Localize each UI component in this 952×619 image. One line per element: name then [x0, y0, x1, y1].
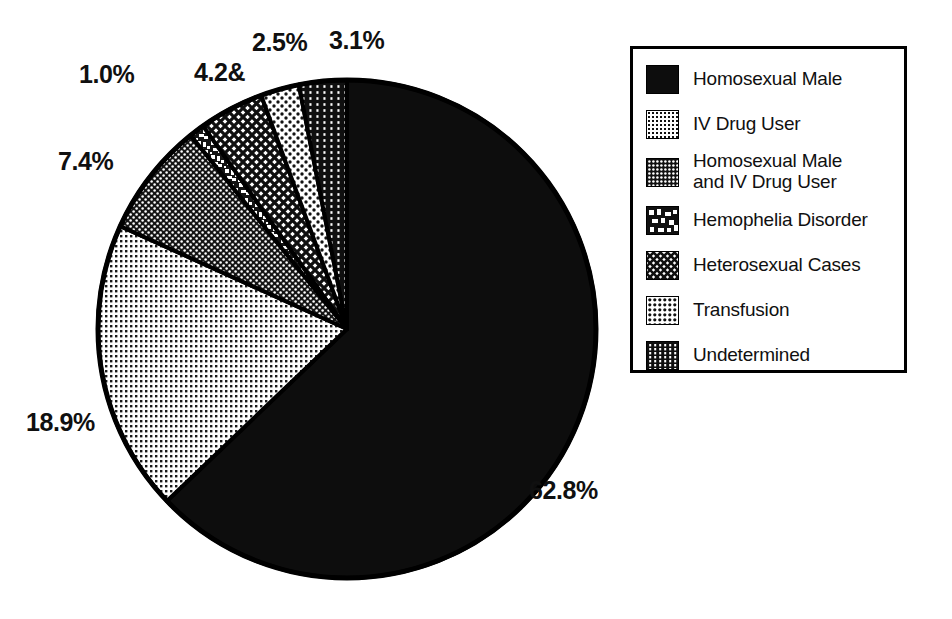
- legend-item-label: Homosexual Male: [693, 69, 842, 90]
- pie-slice-percent-label: 2.5%: [252, 30, 307, 55]
- legend-swatch-dark-dot-grid-icon: [646, 158, 679, 187]
- pie-slice-group: [98, 80, 596, 578]
- pie-slice-percent-label: 62.8%: [529, 478, 598, 503]
- legend-item[interactable]: Hemophelia Disorder: [646, 198, 900, 242]
- legend-item-label: Undetermined: [693, 345, 810, 366]
- legend-swatch-diagonal-crosshatch-icon: [646, 251, 679, 280]
- pie-slice-percent-label: 3.1%: [329, 28, 384, 53]
- legend-item[interactable]: Transfusion: [646, 288, 900, 332]
- legend-item-label: Homosexual Male and IV Drug User: [693, 151, 842, 192]
- legend-item[interactable]: Homosexual Male: [646, 57, 900, 101]
- chart-legend: Homosexual MaleIV Drug UserHomosexual Ma…: [630, 46, 907, 373]
- legend-swatch-solid-black-icon: [646, 65, 679, 94]
- legend-item-label: Heterosexual Cases: [693, 255, 860, 276]
- legend-item[interactable]: IV Drug User: [646, 102, 900, 146]
- legend-swatch-fine-light-dots-icon: [646, 110, 679, 139]
- legend-item[interactable]: Heterosexual Cases: [646, 243, 900, 287]
- legend-swatch-dark-vertical-dots-icon: [646, 341, 679, 370]
- legend-item-label: Transfusion: [693, 300, 789, 321]
- legend-item-label: IV Drug User: [693, 114, 800, 135]
- legend-swatch-irregular-blob-icon: [646, 206, 679, 235]
- legend-swatch-sparse-light-dots-icon: [646, 296, 679, 325]
- legend-item-list: Homosexual MaleIV Drug UserHomosexual Ma…: [646, 57, 900, 366]
- pie-slice-percent-label: 18.9%: [26, 410, 95, 435]
- pie-slice-percent-label: 4.2&: [194, 60, 245, 85]
- pie-slice-percent-label: 7.4%: [58, 149, 113, 174]
- legend-item-label: Hemophelia Disorder: [693, 210, 868, 231]
- legend-item[interactable]: Undetermined: [646, 333, 900, 377]
- pie-chart-page: 62.8%18.9%7.4%1.0%4.2&2.5%3.1% Homosexua…: [0, 0, 952, 619]
- legend-item[interactable]: Homosexual Male and IV Drug User: [646, 147, 900, 197]
- pie-slice-percent-label: 1.0%: [79, 62, 134, 87]
